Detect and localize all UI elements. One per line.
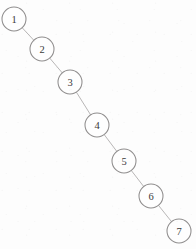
node-label: 3 <box>67 77 72 88</box>
graph-edge <box>50 58 62 73</box>
graph-node-5[interactable]: 5 <box>112 149 136 173</box>
graph-node-6[interactable]: 6 <box>139 184 163 208</box>
graph-node-4[interactable]: 4 <box>85 113 109 137</box>
graph-edge <box>104 135 117 152</box>
graph-diagram: 1234567 <box>0 0 196 249</box>
graph-node-2[interactable]: 2 <box>30 37 54 61</box>
diagram-svg-surface: 1234567 <box>0 0 196 249</box>
node-label: 7 <box>176 226 181 237</box>
graph-edge <box>131 171 143 187</box>
graph-edge <box>159 205 172 221</box>
graph-node-7[interactable]: 7 <box>167 219 191 243</box>
node-label: 2 <box>39 44 44 55</box>
graph-edge <box>76 92 90 115</box>
nodes-layer: 1234567 <box>2 7 191 243</box>
node-label: 1 <box>11 14 16 25</box>
node-label: 5 <box>121 156 126 167</box>
node-label: 4 <box>94 120 100 131</box>
graph-node-3[interactable]: 3 <box>58 70 82 94</box>
graph-edge <box>22 28 34 40</box>
graph-node-1[interactable]: 1 <box>2 7 26 31</box>
node-label: 6 <box>148 191 153 202</box>
